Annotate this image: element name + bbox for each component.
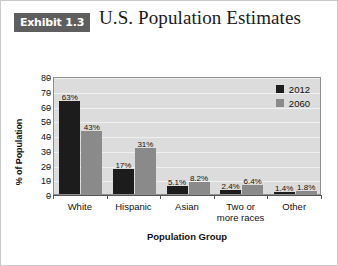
legend-label: 2060 [289, 98, 310, 109]
bar-value-label: 17% [115, 161, 131, 170]
y-tick-mark [47, 93, 51, 94]
y-tick-mark [47, 122, 51, 123]
x-category-label: Hispanic [115, 201, 151, 212]
y-tick-mark [47, 137, 51, 138]
bar-value-label: 43% [84, 123, 100, 132]
bar-value-label: 6.4% [243, 177, 261, 186]
x-tick-mark [267, 195, 268, 199]
legend-label: 2012 [289, 84, 310, 95]
legend-swatch [276, 85, 284, 93]
x-axis-line [53, 195, 321, 196]
bar [189, 182, 210, 194]
legend-item: 2060 [276, 97, 310, 109]
y-tick-mark [47, 152, 51, 153]
x-category-label: White [68, 201, 92, 212]
bar-value-label: 8.2% [190, 174, 208, 183]
bar-value-label: 5.1% [168, 178, 186, 187]
x-tick-mark [160, 195, 161, 199]
x-category-label: Asian [175, 201, 199, 212]
x-tick-mark [321, 195, 322, 199]
legend-swatch [276, 99, 284, 107]
bar-value-label: 63% [62, 93, 78, 102]
bar [242, 185, 263, 194]
x-category-label: Other [282, 201, 306, 212]
y-tick-mark [47, 167, 51, 168]
x-tick-mark [107, 195, 108, 199]
y-tick-mark [47, 108, 51, 109]
y-tick-mark [47, 196, 51, 197]
y-tick-mark [47, 78, 51, 79]
exhibit-card: Exhibit 1.3 U.S. Population Estimates % … [0, 0, 338, 266]
chart-region: % of Population 01020304050607080 63%17%… [1, 63, 338, 266]
plot-area: 63%17%5.1%2.4%1.4%43%31%8.2%6.4%1.8% 201… [53, 77, 321, 195]
exhibit-title: U.S. Population Estimates [99, 7, 331, 28]
y-tick-mark [47, 181, 51, 182]
bar [81, 131, 102, 194]
exhibit-header: Exhibit 1.3 U.S. Population Estimates [1, 1, 338, 64]
bar [113, 169, 134, 194]
legend-item: 2012 [276, 83, 310, 95]
y-axis-tick-labels: 01020304050607080 [15, 77, 51, 195]
bar-value-label: 1.4% [275, 184, 293, 193]
x-category-label: Two ormore races [217, 201, 265, 223]
bar-value-label: 1.8% [297, 183, 315, 192]
x-category-label-line2: more races [217, 212, 265, 223]
bar [167, 186, 188, 194]
bar-value-label: 31% [137, 140, 153, 149]
bar-value-label: 2.4% [221, 182, 239, 191]
bar [59, 101, 80, 194]
x-tick-mark [214, 195, 215, 199]
x-axis-title: Population Group [53, 231, 321, 242]
chart-legend: 20122060 [276, 83, 310, 111]
exhibit-number-badge: Exhibit 1.3 [14, 13, 90, 32]
gridline [54, 78, 320, 79]
bar [135, 148, 156, 194]
x-tick-mark [53, 195, 54, 199]
